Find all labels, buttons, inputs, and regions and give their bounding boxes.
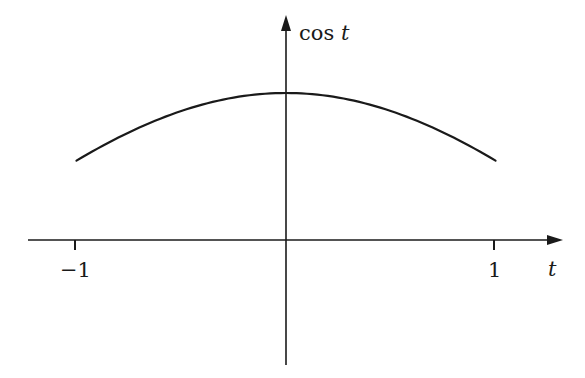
x-axis-arrow-icon xyxy=(547,235,563,245)
cosine-plot: cos t t −1 1 xyxy=(0,0,585,378)
x-axis-label: t xyxy=(548,257,557,281)
y-axis-arrow-icon xyxy=(281,15,291,31)
tick-label-neg1: −1 xyxy=(60,258,91,282)
tick-label-pos1: 1 xyxy=(488,258,501,282)
y-axis-label: cos t xyxy=(299,21,350,45)
